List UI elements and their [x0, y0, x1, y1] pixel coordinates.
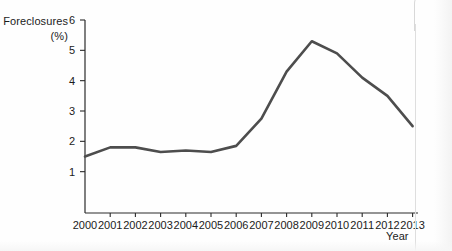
- x-tick-label: 2011: [350, 219, 374, 231]
- y-tick-label: 1: [69, 166, 75, 178]
- x-tick-label: 2002: [123, 219, 147, 231]
- y-tick-label: 6: [69, 14, 75, 26]
- x-tick-label: 2010: [325, 219, 349, 231]
- y-tick-group: 123456: [69, 14, 85, 178]
- line-chart-plot: 123456 200020012002200320042005200620072…: [0, 0, 452, 251]
- y-tick-label: 2: [69, 135, 75, 147]
- y-tick-label: 3: [69, 105, 75, 117]
- chart-page: Foreclosures (%) 123456 2000200120022003…: [0, 0, 452, 251]
- page-edge-vertical-line: [415, 24, 416, 251]
- y-tick-label: 5: [69, 44, 75, 56]
- x-tick-label: 2001: [98, 219, 122, 231]
- foreclosures-data-line: [85, 41, 413, 156]
- x-tick-label: 2000: [73, 219, 97, 231]
- x-tick-label: 2008: [274, 219, 298, 231]
- x-tick-label: 2006: [224, 219, 248, 231]
- x-tick-label: 2009: [300, 219, 324, 231]
- x-tick-label: 2007: [249, 219, 273, 231]
- page-bottom-shading: [0, 241, 452, 251]
- x-tick-label: 2005: [199, 219, 223, 231]
- x-tick-label: 2003: [148, 219, 172, 231]
- page-corner-line: [414, 0, 441, 31]
- page-edge-shading: [434, 0, 452, 251]
- y-tick-label: 4: [69, 75, 75, 87]
- x-tick-label: 2004: [174, 219, 198, 231]
- x-tick-group: 2000200120022003200420052006200720082009…: [73, 213, 425, 231]
